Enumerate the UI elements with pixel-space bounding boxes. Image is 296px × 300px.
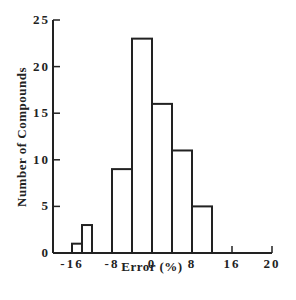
histogram-bar <box>152 104 172 253</box>
histogram-bar <box>192 206 212 253</box>
histogram-bar <box>82 225 92 253</box>
histogram-bar <box>72 244 82 253</box>
bars-group <box>72 39 212 253</box>
x-tick-label: -16 <box>60 256 83 271</box>
x-axis-title: Error (%) <box>121 259 182 274</box>
x-tick-label: -8 <box>105 256 120 271</box>
y-tick-label: 15 <box>33 105 50 120</box>
x-tick-label: 20 <box>264 256 281 271</box>
y-ticks: 0510152025 <box>33 12 60 260</box>
y-tick-label: 25 <box>33 12 50 27</box>
x-tick-label: 8 <box>188 256 197 271</box>
x-tick-label: 16 <box>224 256 241 271</box>
y-tick-label: 20 <box>33 59 50 74</box>
histogram-bar <box>132 39 152 253</box>
y-tick-label: 5 <box>42 198 51 213</box>
y-tick-label: 10 <box>33 152 50 167</box>
histogram-chart: 0510152025 -16-8081620 Error (%) Number … <box>0 0 296 300</box>
histogram-bar <box>172 150 192 253</box>
y-axis-title: Number of Compounds <box>14 67 29 207</box>
y-tick-label: 0 <box>42 245 51 260</box>
histogram-bar <box>112 169 132 253</box>
